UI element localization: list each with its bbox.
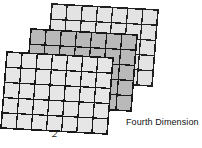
grid-layers-group (1, 4, 158, 134)
grid-plane-front-plane (1, 52, 113, 134)
figure-root: 2 Fourth Dimension (0, 0, 202, 148)
fourth-dimension-caption: Fourth Dimension (126, 118, 199, 127)
grid-plane-surface (1, 52, 113, 134)
dimension-number-label: 2 (52, 128, 58, 139)
